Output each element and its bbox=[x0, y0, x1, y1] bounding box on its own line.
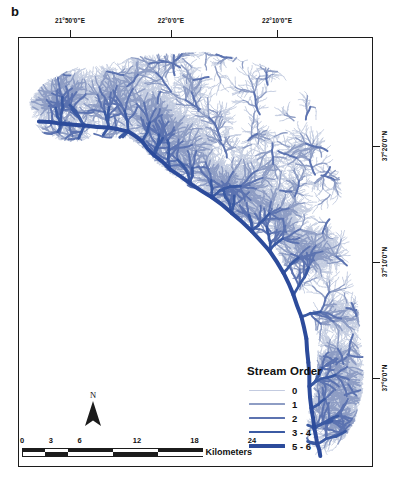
legend-label: 0 bbox=[292, 385, 297, 396]
longitude-label: 22°10'0"E bbox=[262, 17, 292, 24]
latitude-tick bbox=[373, 378, 380, 379]
scale-segment bbox=[68, 449, 113, 456]
longitude-tick bbox=[277, 30, 278, 37]
legend-label: 5 - 6 bbox=[292, 441, 311, 452]
latitude-tick bbox=[373, 262, 380, 263]
scale-tick-label: 18 bbox=[190, 436, 198, 445]
north-arrow-icon bbox=[78, 401, 108, 431]
scale-bar-unit: Kilometers bbox=[205, 447, 252, 457]
scale-bar-ticks: 0 3 6 12 18 24 bbox=[22, 436, 252, 447]
legend-title: Stream Order bbox=[247, 365, 350, 377]
legend-swatch-order-1 bbox=[249, 403, 285, 404]
latitude-label: 37°20'0"N bbox=[381, 131, 388, 161]
legend-item: 5 - 6 bbox=[245, 439, 350, 453]
scale-tick-label: 24 bbox=[248, 436, 256, 445]
longitude-label: 22°0'0"E bbox=[158, 17, 184, 24]
north-arrow: N bbox=[78, 390, 108, 431]
north-arrow-label: N bbox=[78, 390, 108, 400]
scale-segment bbox=[113, 449, 158, 456]
scale-bar: 0 3 6 12 18 24 Kilometers bbox=[22, 436, 252, 457]
legend-label: 1 bbox=[292, 399, 297, 410]
longitude-tick bbox=[70, 30, 71, 37]
legend-swatch-order-2 bbox=[249, 417, 285, 419]
legend-item: 2 bbox=[245, 411, 350, 425]
scale-segment bbox=[158, 449, 203, 456]
legend-label: 3 - 4 bbox=[292, 427, 311, 438]
legend-item: 1 bbox=[245, 397, 350, 411]
figure-panel: b 21°50'0"E 22°0'0"E 22°10'0"E 37°20'0"N… bbox=[0, 0, 406, 481]
scale-tick-label: 0 bbox=[20, 436, 24, 445]
legend-label: 2 bbox=[292, 413, 297, 424]
latitude-label: 37°0'0"N bbox=[381, 365, 388, 392]
scale-tick-label: 6 bbox=[77, 436, 81, 445]
scale-segment bbox=[45, 449, 67, 456]
scale-tick-label: 3 bbox=[49, 436, 53, 445]
legend: Stream Order 0 1 2 3 - 4 5 - 6 bbox=[245, 365, 350, 453]
legend-item: 3 - 4 bbox=[245, 425, 350, 439]
longitude-tick bbox=[171, 30, 172, 37]
latitude-label: 37°10'0"N bbox=[381, 247, 388, 277]
scale-bar-segments bbox=[22, 448, 203, 457]
scale-bar-graphic: Kilometers bbox=[22, 447, 252, 457]
legend-item: 0 bbox=[245, 383, 350, 397]
legend-swatch-order-3-4 bbox=[249, 431, 285, 434]
panel-label: b bbox=[11, 4, 19, 19]
scale-tick-label: 12 bbox=[133, 436, 141, 445]
latitude-tick bbox=[373, 146, 380, 147]
legend-swatch-order-0 bbox=[249, 390, 285, 391]
scale-segment bbox=[23, 449, 45, 456]
longitude-label: 21°50'0"E bbox=[55, 17, 85, 24]
